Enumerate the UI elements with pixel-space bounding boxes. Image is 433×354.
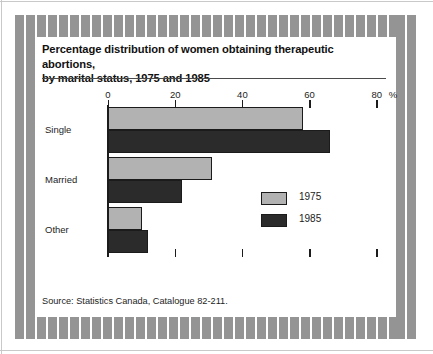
axis-tick-label: 40 (237, 89, 248, 100)
bar (108, 130, 330, 153)
axis-tick-bottom (175, 249, 177, 257)
bar (108, 180, 182, 203)
bar (108, 207, 142, 230)
chart-panel: Percentage distribution of women obtaini… (37, 37, 396, 317)
axis-tick-label: 0 (105, 89, 110, 100)
axis-tick-top (376, 100, 378, 108)
axis-tick-label: 60 (304, 89, 315, 100)
decorative-border-left (15, 15, 37, 339)
axis-tick-bottom (376, 249, 378, 257)
decorative-border-top (15, 15, 418, 37)
title-divider (42, 78, 386, 79)
bar (108, 230, 148, 253)
decorative-border-bottom (15, 317, 418, 339)
plot-area: 020406080% SingleMarriedOther 1975 1985 (37, 89, 396, 279)
bar (108, 107, 303, 130)
axis-unit-label: % (389, 89, 397, 100)
decorative-border-right (396, 15, 418, 339)
legend-swatch-1975 (261, 192, 287, 205)
axis-tick-bottom (309, 249, 311, 257)
legend-swatch-1985 (261, 214, 287, 227)
axis-tick-top (309, 100, 311, 108)
page-edge-bottom (0, 350, 433, 351)
category-label: Other (45, 224, 69, 235)
legend-label-1975: 1975 (299, 191, 321, 202)
category-label: Married (45, 174, 77, 185)
axis-tick-label: 80 (372, 89, 383, 100)
category-label: Single (45, 124, 71, 135)
figure-container: Percentage distribution of women obtaini… (0, 0, 433, 354)
source-note: Source: Statistics Canada, Catalogue 82-… (42, 296, 228, 306)
axis-tick-bottom (242, 249, 244, 257)
page-edge-top (0, 1, 433, 2)
page-edge-left (1, 0, 2, 354)
bar (108, 157, 212, 180)
legend-label-1985: 1985 (299, 213, 321, 224)
axis-tick-label: 20 (170, 89, 181, 100)
